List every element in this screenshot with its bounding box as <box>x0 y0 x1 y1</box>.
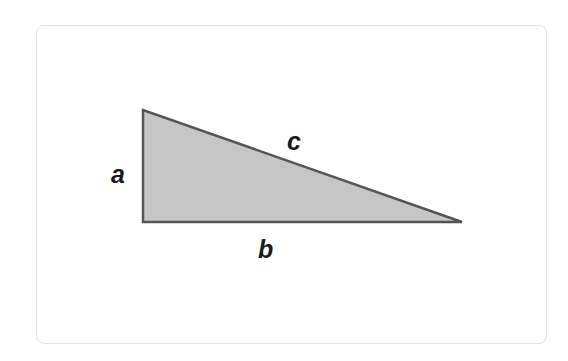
right-triangle <box>143 110 462 222</box>
side-c-label: c <box>287 127 301 155</box>
side-b-label: b <box>258 235 273 263</box>
right-triangle-diagram: a c b <box>0 0 568 361</box>
side-a-label: a <box>111 160 125 188</box>
